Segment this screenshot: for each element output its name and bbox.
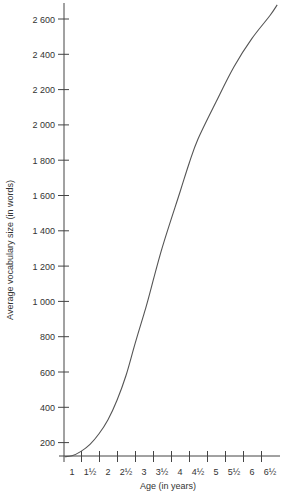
y-tick-label: 200 [40, 438, 55, 448]
y-tick-label: 2 200 [32, 85, 55, 95]
y-tick-label: 2 600 [32, 15, 55, 25]
vocabulary-curve [65, 5, 277, 457]
x-tick-label: 5 [213, 467, 218, 477]
x-tick-label: 2½ [120, 467, 133, 477]
x-axis-ticks: 11½22½33½44½55½66½ [69, 451, 276, 477]
y-tick-label: 1 000 [32, 297, 55, 307]
y-tick-label: 1 200 [32, 262, 55, 272]
x-tick-label: 5½ [228, 467, 241, 477]
x-tick-label: 3½ [156, 467, 169, 477]
y-tick-label: 400 [40, 403, 55, 413]
x-tick-label: 3 [141, 467, 146, 477]
x-tick-label: 6½ [264, 467, 277, 477]
x-tick-label: 6 [249, 467, 254, 477]
x-tick-label: 1 [69, 467, 74, 477]
x-tick-label: 2 [105, 467, 110, 477]
x-tick-label: 4½ [192, 467, 205, 477]
y-tick-label: 1 400 [32, 226, 55, 236]
x-tick-label: 4 [177, 467, 182, 477]
x-tick-label: 1½ [84, 467, 97, 477]
y-tick-label: 1 800 [32, 156, 55, 166]
y-axis-label: Average vocabulary size (in words) [5, 180, 15, 320]
y-tick-label: 1 600 [32, 191, 55, 201]
y-tick-label: 600 [40, 368, 55, 378]
x-axis-label: Age (in years) [140, 481, 196, 491]
y-tick-label: 2 000 [32, 120, 55, 130]
axes [59, 3, 280, 462]
vocabulary-line-chart: 2004006008001 0001 2001 4001 6001 8002 0… [0, 0, 282, 497]
y-tick-label: 2 400 [32, 50, 55, 60]
y-tick-label: 800 [40, 332, 55, 342]
